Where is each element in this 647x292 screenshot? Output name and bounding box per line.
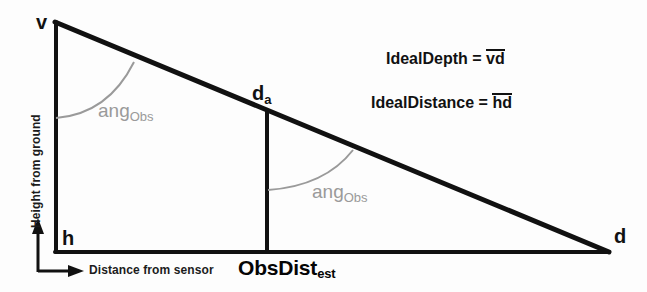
formula-ideal-distance-segment: hd [492, 93, 512, 112]
vertex-label-v: v [36, 12, 47, 32]
angle-label-lower-base: ang [312, 181, 344, 202]
formula-ideal-distance: IdealDistance = hd [371, 93, 512, 112]
vertex-label-da-sub: a [264, 92, 271, 107]
triangle-figure [0, 0, 647, 292]
vertical-axis-label: Height from ground [30, 114, 42, 228]
vertex-label-d: d [614, 226, 626, 246]
obs-dist-est-base: ObsDist [238, 256, 317, 279]
horizontal-axis-label: Distance from sensor [89, 264, 214, 276]
formula-ideal-distance-name: IdealDistance [371, 94, 474, 111]
obs-dist-est-label: ObsDistest [238, 257, 335, 280]
formula-ideal-depth-name: IdealDepth [386, 50, 468, 67]
obs-dist-est-sub: est [317, 266, 335, 281]
formula-ideal-depth-equals: = [472, 50, 481, 67]
angle-label-upper-base: ang [98, 100, 130, 121]
angle-label-lower-sub: Obs [344, 190, 368, 205]
formula-ideal-depth-segment: vd [486, 49, 505, 68]
horizontal-axis-arrowhead [68, 265, 84, 277]
diagram-canvas: v h d da angObs angObs IdealDepth = vd I… [0, 0, 647, 292]
vertex-label-h: h [62, 228, 74, 248]
formula-ideal-depth: IdealDepth = vd [386, 49, 505, 68]
vertex-label-da-base: d [252, 82, 264, 104]
angle-label-lower: angObs [312, 182, 368, 204]
vertex-label-d-text: d [614, 225, 626, 247]
angle-label-upper: angObs [98, 101, 154, 123]
vertex-label-da: da [252, 83, 271, 106]
hypotenuse-line [55, 22, 609, 252]
angle-label-upper-sub: Obs [130, 109, 154, 124]
formula-ideal-distance-equals: = [479, 94, 488, 111]
